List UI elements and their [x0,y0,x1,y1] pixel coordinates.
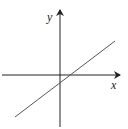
coordinate-diagram: y x [0,0,128,129]
y-axis-label: y [46,10,53,24]
graph-line [15,41,115,117]
x-axis-label: x [110,78,117,92]
